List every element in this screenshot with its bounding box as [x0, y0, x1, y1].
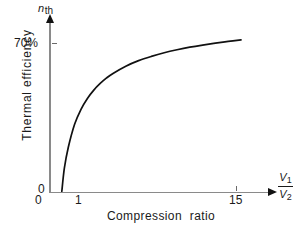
y-axis-tick-70: [52, 43, 57, 44]
y-axis-symbol-main: n: [38, 2, 44, 14]
fraction-denominator-subscript: 2: [287, 192, 292, 202]
y-axis-title: Thermal efficiency: [20, 10, 34, 160]
plot-curve-area: [0, 0, 308, 233]
fraction-bar: [278, 186, 293, 187]
x-axis-tick-15: [236, 186, 237, 191]
efficiency-curve-path: [62, 40, 241, 192]
fraction-numerator: V1: [279, 172, 291, 183]
thermal-efficiency-chart: 70% 0 0 1 15 nth V1 V2 Thermal efficienc…: [0, 0, 308, 233]
fraction-denominator: V2: [279, 189, 291, 200]
x-axis-tick-label-one: 1: [75, 194, 82, 206]
y-axis-symbol: nth: [38, 2, 52, 14]
x-axis-symbol-fraction: V1 V2: [278, 172, 293, 200]
fraction-denominator-var: V: [279, 188, 286, 200]
fraction-numerator-subscript: 1: [287, 175, 292, 185]
y-axis-symbol-subscript: th: [45, 5, 53, 16]
fraction-numerator-var: V: [279, 171, 286, 183]
x-axis-tick-label-fifteen: 15: [229, 194, 242, 206]
x-axis-title: Compression ratio: [49, 209, 273, 223]
y-axis-line: [49, 22, 51, 193]
x-axis-arrow-icon: [268, 188, 277, 196]
x-axis-tick-label-zero: 0: [35, 194, 42, 206]
